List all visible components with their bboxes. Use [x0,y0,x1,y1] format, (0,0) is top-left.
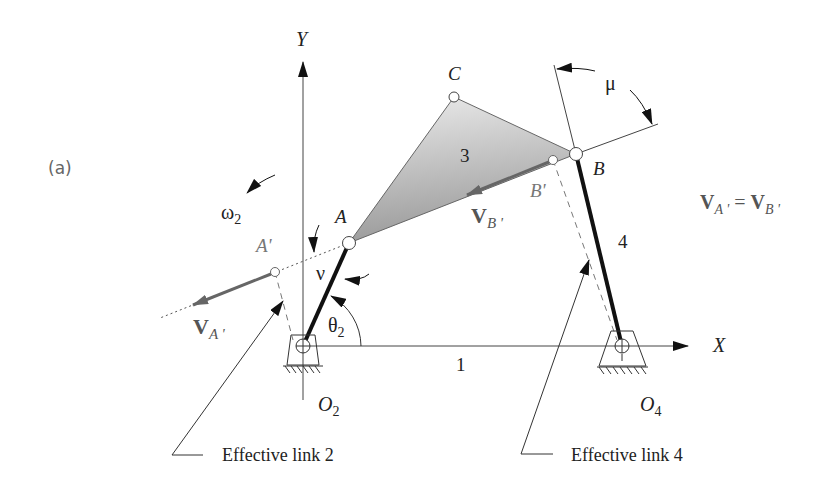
velocity-equation: VA ' = VB ' [700,191,781,217]
o2-label: O2 [318,393,339,419]
panel-label: (a) [48,158,72,178]
pin-c [449,92,459,102]
velocity-vector-a-prime [193,274,271,305]
a-prime-label: A' [254,235,273,256]
a-label: A [333,206,347,227]
mu-reference-line [576,124,658,154]
callout-effective-link-4: Effective link 4 [521,260,683,465]
vb-prime-label: VB ' [471,203,504,231]
point-b-prime [549,156,558,165]
omega-2-label: ω2 [221,201,241,227]
mu-angle-indicator: μ [557,68,652,124]
effective-link-2-label: Effective link 2 [222,445,334,465]
x-axis-label: X [712,334,726,356]
link-3-label: 3 [460,145,470,166]
pin-a [343,237,356,250]
ground-pivot-o4: O4 [597,331,661,419]
point-a-prime [271,268,280,277]
va-prime-label: VA ' [193,314,226,342]
x-axis: X [303,334,726,356]
theta-2-angle-indicator: θ2 [328,296,361,346]
ground-pivot-o2: O2 [283,335,339,419]
effective-link-4-label: Effective link 4 [571,445,683,465]
mu-label: μ [605,72,616,95]
fourbar-diagram: (a) Y X 1 3 4 [0,0,834,490]
theta-2-label: θ2 [328,314,345,340]
coupler-link-3: 3 [349,97,576,243]
b-label: B [593,158,605,179]
o4-label: O4 [640,393,661,419]
omega-2-indicator: ω2 [221,175,275,227]
b-prime-label: B' [530,180,547,201]
nu-label: ν [316,262,325,284]
y-axis-label: Y [296,28,309,50]
link-4-label: 4 [618,231,628,252]
c-label: C [448,63,461,84]
pin-b [570,148,583,161]
rocker-extension-line [554,65,576,154]
effective-link-2-line [275,272,293,340]
rocker-link-4 [576,154,622,346]
link-1-label: 1 [456,354,466,375]
